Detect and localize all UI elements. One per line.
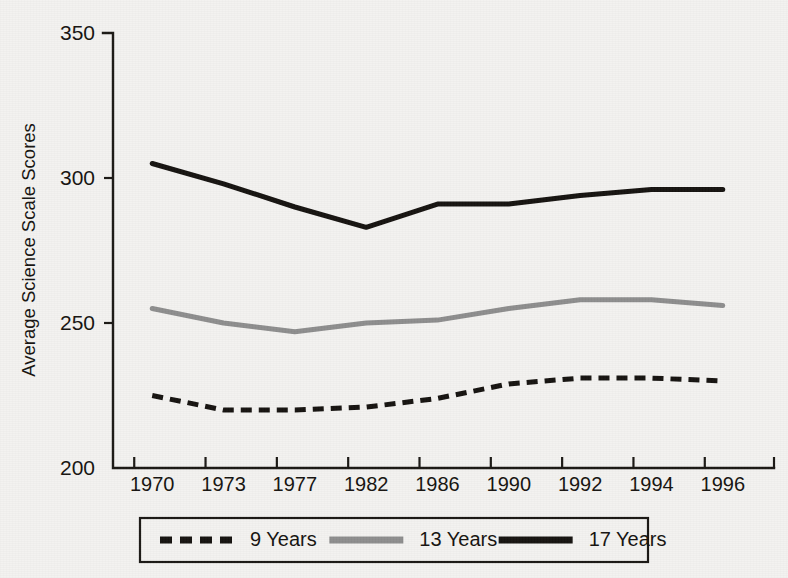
- x-tick-label: 1992: [558, 473, 603, 495]
- legend-entries: 9 Years13 Years17 Years: [160, 528, 667, 550]
- y-tick-label: 300: [60, 166, 95, 189]
- legend-item-17-years: 17 Years: [499, 528, 667, 550]
- data-series-group: [152, 164, 723, 411]
- axis-lines: [103, 33, 774, 468]
- legend: 9 Years13 Years17 Years: [140, 518, 667, 562]
- x-axis-tick-marks: [134, 457, 774, 468]
- y-tick-label: 200: [60, 456, 95, 479]
- x-tick-label: 1977: [273, 473, 318, 495]
- x-tick-label: 1990: [487, 473, 532, 495]
- y-axis-tick-marks: [104, 178, 113, 323]
- x-tick-label: 1994: [629, 473, 674, 495]
- y-tick-label: 350: [60, 21, 95, 44]
- legend-item-13-years: 13 Years: [329, 528, 497, 550]
- x-tick-label: 1982: [344, 473, 389, 495]
- science-scores-line-chart: 200250300350 197019731977198219861990199…: [0, 0, 788, 578]
- legend-item-9-years: 9 Years: [160, 528, 317, 550]
- legend-label: 13 Years: [419, 528, 497, 550]
- x-tick-label: 1970: [130, 473, 175, 495]
- x-tick-label: 1996: [701, 473, 746, 495]
- x-axis-tick-labels: 197019731977198219861990199219941996: [130, 473, 745, 495]
- series-line-17-years: [152, 164, 723, 228]
- x-tick-label: 1973: [201, 473, 246, 495]
- y-axis-tick-labels: 200250300350: [60, 21, 95, 479]
- axis-group: [103, 33, 774, 468]
- y-axis-title: Average Science Scale Scores: [18, 123, 39, 377]
- chart-canvas: 200250300350 197019731977198219861990199…: [0, 0, 788, 578]
- legend-label: 17 Years: [589, 528, 667, 550]
- series-line-9-years: [152, 378, 723, 410]
- legend-label: 9 Years: [250, 528, 317, 550]
- series-line-13-years: [152, 300, 723, 332]
- x-tick-label: 1986: [415, 473, 460, 495]
- y-tick-label: 250: [60, 311, 95, 334]
